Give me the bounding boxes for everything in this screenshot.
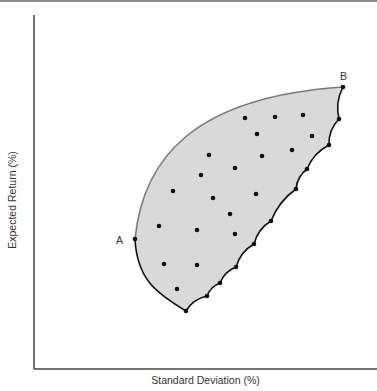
asset-dot xyxy=(255,132,260,137)
asset-dot xyxy=(211,196,216,201)
boundary-dot xyxy=(218,281,223,286)
scatter-plot xyxy=(0,0,377,391)
y-axis-label: Expected Return (%) xyxy=(6,151,18,248)
boundary-dot xyxy=(205,294,210,299)
point-a-label: A xyxy=(116,234,123,246)
boundary-dot xyxy=(234,265,239,270)
asset-dot xyxy=(260,154,265,159)
boundary-dot xyxy=(341,85,346,90)
asset-dot xyxy=(195,263,200,268)
asset-dot xyxy=(175,287,180,292)
x-axis-label: Standard Deviation (%) xyxy=(34,374,377,386)
asset-dot xyxy=(243,116,248,121)
asset-dot xyxy=(290,148,295,153)
boundary-dot xyxy=(252,242,257,247)
feasible-region xyxy=(135,87,343,311)
asset-dot xyxy=(162,262,167,267)
asset-dot xyxy=(254,192,259,197)
asset-dot xyxy=(233,232,238,237)
asset-dot xyxy=(195,228,200,233)
asset-dot xyxy=(301,113,306,118)
boundary-dot xyxy=(327,143,332,148)
point-b-label: B xyxy=(340,70,347,82)
asset-dot xyxy=(310,134,315,139)
asset-dot xyxy=(171,189,176,194)
asset-dot xyxy=(228,212,233,217)
asset-dot xyxy=(157,224,162,229)
asset-dot xyxy=(207,153,212,158)
asset-dot xyxy=(273,115,278,120)
boundary-dot xyxy=(269,219,274,224)
boundary-dot xyxy=(337,117,342,122)
region-fill xyxy=(135,87,343,311)
asset-dot xyxy=(199,173,204,178)
point-a-dot xyxy=(133,237,138,242)
boundary-dot xyxy=(305,167,310,172)
boundary-dot xyxy=(184,309,189,314)
asset-dot xyxy=(233,166,238,171)
boundary-dot xyxy=(294,187,299,192)
